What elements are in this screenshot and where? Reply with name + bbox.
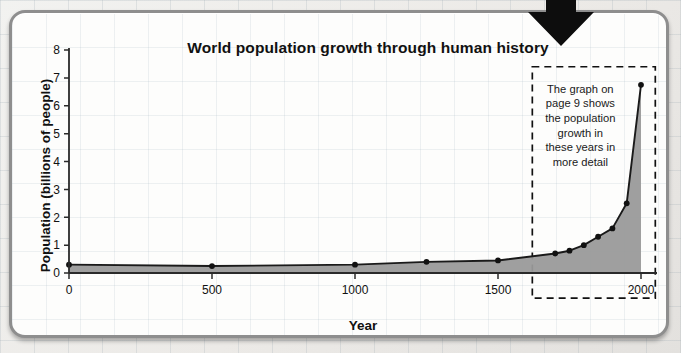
svg-text:500: 500 [202,283,222,297]
svg-text:page 9 shows: page 9 shows [546,97,615,109]
svg-text:2000: 2000 [628,283,655,297]
svg-text:these years in: these years in [545,141,615,153]
svg-text:7: 7 [53,71,60,85]
svg-text:growth in: growth in [558,127,603,139]
detail-callout-text: The graph onpage 9 showsthe populationgr… [545,83,615,168]
population-markers [66,82,644,269]
svg-text:1: 1 [53,238,60,252]
svg-text:3: 3 [53,183,60,197]
svg-text:0: 0 [53,266,60,280]
y-axis-ticks: 012345678 [53,43,69,280]
svg-text:more detail: more detail [553,156,608,168]
svg-text:1500: 1500 [485,283,512,297]
svg-text:1000: 1000 [342,283,369,297]
svg-text:The graph on: The graph on [547,83,614,95]
svg-text:4: 4 [53,155,60,169]
x-axis-ticks: 0500100015002000 [66,273,655,297]
svg-text:8: 8 [53,43,60,57]
svg-text:5: 5 [53,127,60,141]
svg-text:2: 2 [53,211,60,225]
svg-text:6: 6 [53,99,60,113]
svg-text:the population: the population [545,112,615,124]
population-chart: 012345678 0500100015002000 The graph onp… [12,13,666,335]
figure-card: World population growth through human hi… [9,10,669,338]
svg-text:0: 0 [66,283,73,297]
page-background: World population growth through human hi… [0,0,681,353]
